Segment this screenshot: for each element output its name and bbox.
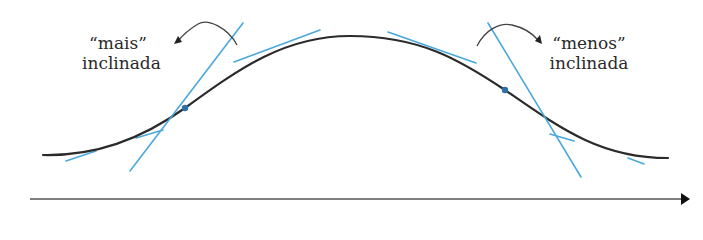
right-label-line2: inclinada: [548, 53, 630, 73]
axis-arrow-icon: [681, 193, 690, 205]
right-inflection-point: [502, 87, 508, 93]
left-annotation-label: “mais” inclinada: [82, 33, 154, 73]
right-curved-arrow: [477, 24, 538, 46]
right-annotation-label: “menos” inclinada: [548, 33, 630, 73]
right-arrowhead-icon: [535, 35, 542, 44]
left-label-line1: “mais”: [82, 33, 154, 53]
x-axis: [30, 193, 690, 205]
left-label-line2: inclinada: [82, 53, 154, 73]
annotation-arrows: [178, 22, 538, 46]
left-inflection-point: [182, 105, 188, 111]
right-label-line1: “menos”: [548, 33, 630, 53]
